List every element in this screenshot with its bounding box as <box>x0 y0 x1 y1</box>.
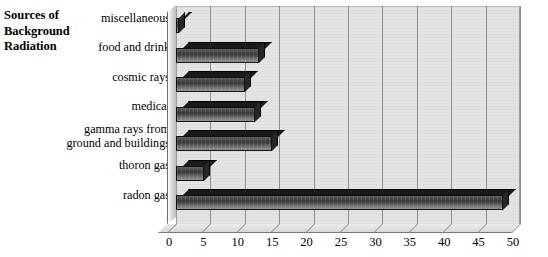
bar <box>176 42 259 57</box>
category-label: thoron gas <box>54 159 170 173</box>
category-label: food and drink <box>54 41 170 55</box>
y-axis-wall <box>167 5 176 224</box>
category-label: medical <box>54 100 170 114</box>
x-tick-label: 45 <box>466 235 492 250</box>
bar <box>176 101 255 116</box>
x-tick-label: 0 <box>156 235 182 250</box>
x-tick-label: 20 <box>294 235 320 250</box>
x-tick-label: 25 <box>328 235 354 250</box>
y-axis-category-labels: miscellaneousfood and drinkcosmic raysme… <box>54 0 170 226</box>
bar <box>176 71 245 86</box>
category-label: cosmic rays <box>54 71 170 85</box>
plot-area <box>176 6 520 224</box>
x-axis: 05101520253035404550 <box>176 224 520 257</box>
x-tick-label: 5 <box>190 235 216 250</box>
x-tick-label: 50 <box>500 235 526 250</box>
category-label: miscellaneous <box>54 12 170 26</box>
category-label: radon gas <box>54 189 170 203</box>
bar-front-face <box>176 107 255 122</box>
bar-front-face <box>176 166 204 181</box>
bar <box>176 130 272 145</box>
bar-front-face <box>176 48 259 63</box>
x-tick-label: 35 <box>397 235 423 250</box>
gridline-50 <box>520 6 521 224</box>
x-tick-label: 40 <box>431 235 457 250</box>
x-tick-label: 10 <box>225 235 251 250</box>
bar <box>176 160 204 175</box>
bar <box>176 12 179 27</box>
category-label: gamma rays from ground and buildings <box>54 123 170 150</box>
bar-front-face <box>176 77 245 92</box>
x-tick-label: 30 <box>362 235 388 250</box>
x-tick-label: 15 <box>259 235 285 250</box>
bar-front-face <box>176 136 272 151</box>
bar-front-face <box>176 195 503 210</box>
bar <box>176 189 503 204</box>
